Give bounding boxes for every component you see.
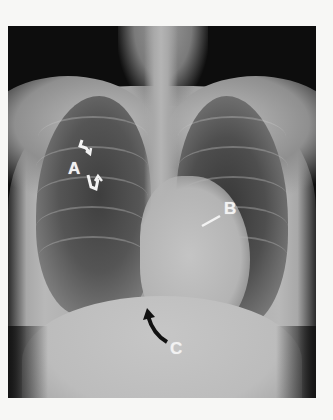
costophrenic-corner	[8, 326, 48, 398]
curved-arrow-icon	[86, 173, 108, 195]
label-c: C	[170, 340, 182, 357]
curved-arrow-icon	[143, 308, 171, 344]
curved-arrow-icon	[78, 138, 98, 158]
label-a: A	[68, 160, 80, 177]
rib	[38, 236, 148, 278]
label-b: B	[224, 200, 236, 217]
arrow-icon	[200, 214, 222, 228]
costophrenic-corner	[276, 326, 316, 398]
